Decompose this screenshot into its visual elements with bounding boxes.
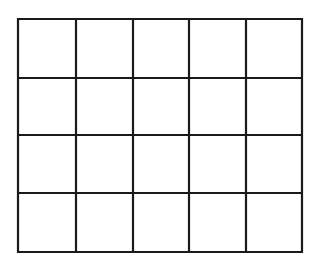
grid-lines — [0, 0, 322, 271]
grid-diagram — [0, 0, 322, 271]
